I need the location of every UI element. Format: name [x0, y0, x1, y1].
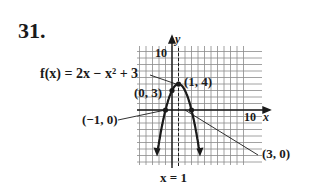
y-tick-label: 10: [155, 46, 167, 60]
symmetry-label: x = 1: [160, 170, 187, 185]
y-axis-label: y: [173, 32, 181, 46]
leader-left-intercept: [118, 110, 166, 120]
vertex-label: (1, 4): [184, 74, 212, 89]
x-intercept-right-point: [189, 107, 194, 112]
function-label: f(x) = 2x − x² + 3: [40, 66, 138, 82]
x-tick-label: 10: [244, 110, 256, 124]
vertex-point: [176, 81, 181, 86]
y-intercept-point: [169, 88, 174, 93]
x-intercept-left-label: (−1, 0): [82, 112, 118, 127]
x-axis-label: x: [262, 110, 269, 124]
y-intercept-label: (0, 3): [134, 85, 162, 100]
x-intercept-left-point: [163, 107, 168, 112]
x-intercept-right-label: (3, 0): [262, 146, 290, 161]
parabola-graph: y 10 10 x f(x) = 2x − x² + 3 (1, 4) (0, …: [0, 0, 310, 188]
